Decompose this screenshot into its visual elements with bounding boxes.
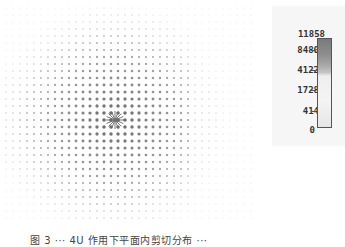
figure-caption: 图 3 ··· 4U 作用下平面内剪切分布 ··· (30, 232, 330, 247)
colorbar (317, 38, 332, 128)
colorbar-tick (311, 50, 316, 51)
colorbar-tick (311, 70, 316, 71)
colorbar-tick (311, 111, 316, 112)
vector-field-plot (0, 0, 260, 225)
colorbar-legend: 11858 8480 4122 1728 414 0 (272, 6, 345, 146)
colorbar-tick (311, 90, 316, 91)
colorbar-label-min: 0 (310, 125, 315, 135)
